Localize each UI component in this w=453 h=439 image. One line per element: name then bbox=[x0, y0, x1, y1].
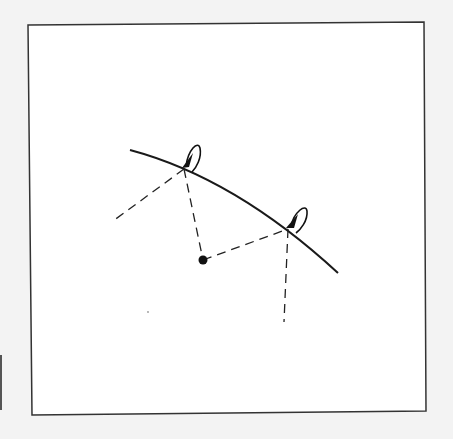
stray-mark bbox=[147, 311, 149, 313]
diagram-panel-border bbox=[28, 22, 426, 415]
center-point bbox=[199, 256, 208, 265]
diagram-canvas bbox=[0, 0, 453, 439]
